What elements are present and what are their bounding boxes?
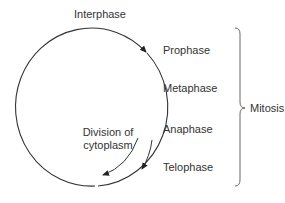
cell-cycle-diagram <box>0 0 285 203</box>
mitosis-arc <box>98 53 168 186</box>
division-label-line2: cytoplasm <box>83 139 133 151</box>
phase-prophase: Prophase <box>163 44 210 56</box>
mitosis-label: Mitosis <box>250 102 284 114</box>
division-label-line1: Division of <box>83 126 134 138</box>
interphase-arc <box>16 28 146 186</box>
phase-metaphase: Metaphase <box>163 82 217 94</box>
phase-telophase: Telophase <box>163 161 213 173</box>
phase-anaphase: Anaphase <box>163 123 213 135</box>
interphase-label: Interphase <box>74 8 126 20</box>
mitosis-brace <box>235 28 245 186</box>
